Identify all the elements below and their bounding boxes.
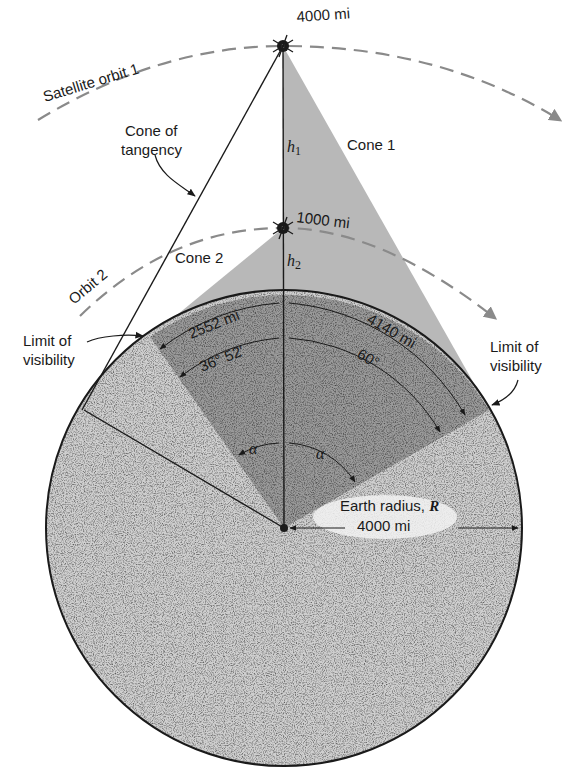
- earth-radius-text: Earth radius, R: [340, 497, 439, 514]
- cone-2-label: Cone 2: [175, 249, 223, 266]
- orbit-2-label: Orbit 2: [65, 265, 110, 307]
- tangency-leader-arrow: [155, 155, 195, 196]
- left-visibility-label-line2: visibility: [23, 351, 75, 368]
- right-visibility-label-line1: Limit of: [490, 338, 539, 355]
- alpha-right-label: α: [316, 445, 325, 462]
- cone-of-tangency-label-line2: tangency: [121, 141, 182, 158]
- right-visibility-label-line2: visibility: [490, 357, 542, 374]
- earth-radius-value: 4000 mi: [357, 517, 410, 534]
- cone-of-tangency-label-line1: Cone of: [125, 122, 178, 139]
- left-visibility-label-line1: Limit of: [23, 332, 72, 349]
- earth-center-point: [280, 524, 288, 532]
- satellite-1-altitude-label: 4000 mi: [296, 4, 350, 25]
- satellite-visibility-diagram: Earth radius, R 4000 mi Satellite orbi: [0, 0, 570, 781]
- vertical-axis: [283, 46, 284, 528]
- right-visibility-leader-arrow: [492, 380, 518, 405]
- cone-1-label: Cone 1: [347, 136, 395, 153]
- alpha-left-label: α: [249, 440, 258, 457]
- left-visibility-leader-arrow: [87, 335, 143, 342]
- satellite-orbit-1-label: Satellite orbit 1: [41, 60, 141, 105]
